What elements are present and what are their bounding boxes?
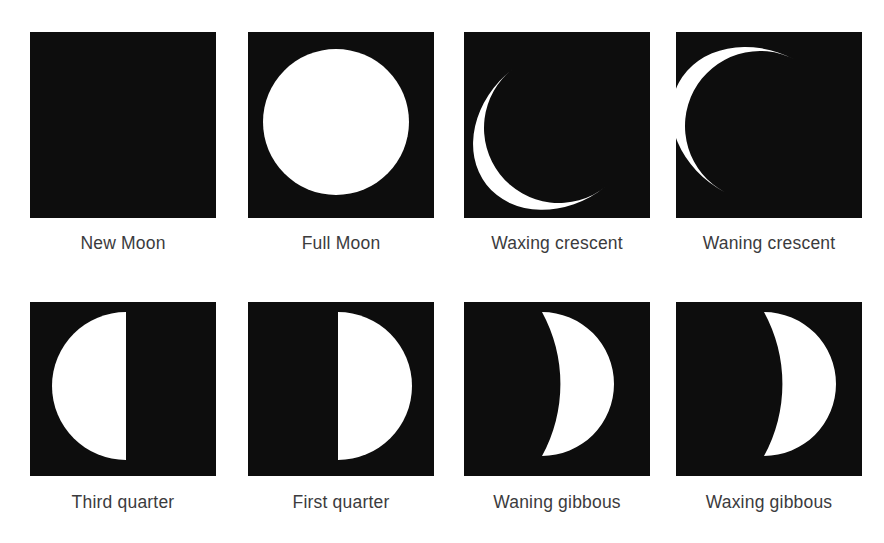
phase-cell-first-quarter: First quarter [248, 302, 434, 513]
phase-cell-third-quarter: Third quarter [30, 302, 216, 513]
phase-tile-waxing-crescent [464, 32, 650, 218]
phase-tile-waxing-gibbous [676, 302, 862, 476]
waxing-gibbous-icon [676, 302, 862, 476]
phase-tile-full-moon [248, 32, 434, 218]
phase-cell-waning-gibbous: Waning gibbous [464, 302, 650, 513]
phase-tile-third-quarter [30, 302, 216, 476]
phase-cell-waning-crescent: Waning crescent [676, 32, 862, 254]
phase-cell-waxing-crescent: Waxing crescent [464, 32, 650, 254]
phase-tile-new-moon [30, 32, 216, 218]
phase-label-third-quarter: Third quarter [30, 492, 216, 513]
phase-tile-waning-crescent [676, 32, 862, 218]
third-quarter-icon [30, 302, 216, 476]
phase-cell-new-moon: New Moon [30, 32, 216, 254]
phase-tile-first-quarter [248, 302, 434, 476]
waxing-crescent-icon [464, 32, 650, 218]
phase-label-waning-gibbous: Waning gibbous [464, 492, 650, 513]
phase-label-full-moon: Full Moon [248, 233, 434, 254]
phase-label-new-moon: New Moon [30, 233, 216, 254]
phase-label-waxing-gibbous: Waxing gibbous [676, 492, 862, 513]
phase-cell-waxing-gibbous: Waxing gibbous [676, 302, 862, 513]
full-moon-icon [248, 32, 434, 218]
waning-gibbous-icon [464, 302, 650, 476]
phase-label-waxing-crescent: Waxing crescent [464, 233, 650, 254]
moon-phases-diagram: New Moon Full Moon Waxing crescent [0, 0, 884, 543]
first-quarter-icon [248, 302, 434, 476]
phase-label-waning-crescent: Waning crescent [676, 233, 862, 254]
new-moon-icon [30, 32, 216, 218]
phase-cell-full-moon: Full Moon [248, 32, 434, 254]
phase-label-first-quarter: First quarter [248, 492, 434, 513]
phase-tile-waning-gibbous [464, 302, 650, 476]
waning-crescent-icon [676, 32, 862, 218]
